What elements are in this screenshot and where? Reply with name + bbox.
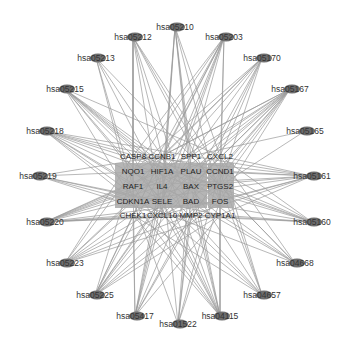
pathway-label: hsa05220 [26, 217, 64, 227]
gene-node-sele[interactable]: SELE [152, 197, 172, 206]
pathway-label: hsa05165 [286, 126, 324, 136]
pathway-node-hsa04115[interactable]: hsa04115 [202, 311, 239, 321]
pathway-node-hsa05223[interactable]: hsa05223 [46, 258, 84, 268]
gene-node-mmp2[interactable]: MMP2 [179, 211, 203, 220]
pathway-label: hsa05215 [46, 84, 84, 94]
pathway-label: hsa05219 [19, 171, 57, 181]
gene-node-bad[interactable]: BAD [183, 197, 200, 206]
pathway-gene-network: hsa05210hsa05212hsa05203hsa05213hsa05170… [0, 0, 358, 349]
pathway-label: hsa05170 [243, 53, 281, 63]
gene-node-casp8[interactable]: CASP8 [120, 152, 147, 161]
pathway-node-hsa05220[interactable]: hsa05220 [26, 217, 64, 227]
gene-node-cxcl10[interactable]: CXCL10 [147, 211, 178, 220]
pathway-node-hsa05167[interactable]: hsa05167 [271, 84, 309, 94]
pathway-label: hsa05160 [293, 217, 331, 227]
gene-node-chek1[interactable]: CHEK1 [120, 211, 147, 220]
pathway-label: hsa04668 [276, 258, 314, 268]
pathway-node-hsa05160[interactable]: hsa05160 [293, 217, 331, 227]
pathway-node-hsa04668[interactable]: hsa04668 [276, 258, 314, 268]
pathway-node-hsa05165[interactable]: hsa05165 [286, 126, 324, 136]
pathway-label: hsa05417 [116, 311, 154, 321]
pathway-label: hsa01522 [159, 319, 197, 329]
gene-node-raf1[interactable]: RAF1 [123, 182, 144, 191]
pathway-node-hsa05161[interactable]: hsa05161 [293, 171, 331, 181]
pathway-label: hsa05210 [156, 22, 194, 32]
pathway-node-hsa05203[interactable]: hsa05203 [205, 32, 243, 42]
gene-node-cxcl2[interactable]: CXCL2 [207, 152, 233, 161]
pathway-label: hsa05167 [271, 84, 309, 94]
pathway-node-hsa04657[interactable]: hsa04657 [243, 290, 281, 300]
gene-node-fos[interactable]: FOS [212, 197, 228, 206]
pathway-label: hsa04657 [243, 290, 281, 300]
gene-node-ptgs2[interactable]: PTGS2 [207, 182, 234, 191]
gene-node-plau[interactable]: PLAU [181, 167, 202, 176]
pathway-label: hsa05223 [46, 258, 84, 268]
pathway-node-hsa05215[interactable]: hsa05215 [46, 84, 84, 94]
pathway-label: hsa05213 [77, 53, 115, 63]
pathway-label: hsa04115 [202, 311, 239, 321]
gene-node-cyp1a1[interactable]: CYP1A1 [205, 211, 236, 220]
pathway-label: hsa05161 [293, 171, 331, 181]
edge [220, 215, 295, 263]
pathway-label: hsa05225 [76, 290, 114, 300]
pathway-node-hsa05213[interactable]: hsa05213 [77, 53, 115, 63]
pathway-node-hsa05219[interactable]: hsa05219 [19, 171, 57, 181]
edge [191, 89, 290, 156]
gene-node-il4[interactable]: IL4 [156, 182, 168, 191]
pathway-node-hsa05212[interactable]: hsa05212 [114, 32, 152, 42]
pathway-node-hsa05417[interactable]: hsa05417 [116, 311, 154, 321]
pathway-label: hsa05203 [205, 32, 243, 42]
gene-node-cdkn1a[interactable]: CDKN1A [117, 197, 150, 206]
gene-node-nqo1[interactable]: NQO1 [122, 167, 145, 176]
pathway-node-hsa05218[interactable]: hsa05218 [26, 126, 64, 136]
pathway-label: hsa05212 [114, 32, 152, 42]
pathway-node-hsa05225[interactable]: hsa05225 [76, 290, 114, 300]
edge [135, 215, 162, 316]
pathway-label: hsa05218 [26, 126, 64, 136]
pathway-node-hsa05170[interactable]: hsa05170 [243, 53, 281, 63]
gene-node-hif1a[interactable]: HIF1A [151, 167, 174, 176]
pathway-node-hsa05210[interactable]: hsa05210 [156, 22, 194, 32]
gene-node-ccnd1[interactable]: CCND1 [206, 167, 234, 176]
gene-node-bax[interactable]: BAX [183, 182, 200, 191]
pathway-node-hsa01522[interactable]: hsa01522 [159, 319, 197, 329]
gene-node-ccnb1[interactable]: CCNB1 [148, 152, 176, 161]
gene-node-spp1[interactable]: SPP1 [181, 152, 202, 161]
